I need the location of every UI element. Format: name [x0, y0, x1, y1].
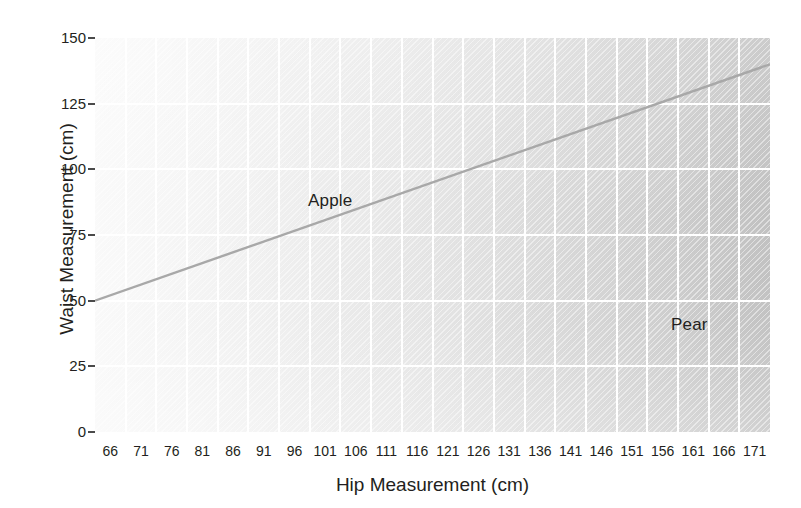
chart-figure: Apple Pear 0255075100125150 Waist Measur… [0, 0, 801, 508]
x-axis-tick-label: 151 [620, 443, 643, 459]
y-axis-tick-mark [88, 300, 95, 302]
region-label-pear: Pear [671, 315, 708, 335]
y-axis-tick-mark [88, 431, 95, 433]
y-axis-tick-mark [88, 37, 95, 39]
y-axis-title: Waist Measurement (cm) [56, 32, 78, 426]
x-axis-tick-label: 91 [256, 443, 272, 459]
x-axis-tick-label: 146 [590, 443, 613, 459]
x-axis-tick-label: 121 [436, 443, 459, 459]
x-axis-tick-label: 101 [313, 443, 336, 459]
x-axis-tick-label: 156 [651, 443, 674, 459]
ratio-boundary-line [95, 38, 770, 432]
x-axis-tick-label: 106 [344, 443, 367, 459]
y-axis-tick-mark [88, 168, 95, 170]
plot-area: Apple Pear [95, 38, 770, 432]
x-axis-tick-label: 136 [528, 443, 551, 459]
x-axis-tick-label: 171 [743, 443, 766, 459]
x-axis-tick-label: 116 [406, 443, 428, 459]
x-axis-tick-label: 71 [133, 443, 149, 459]
x-axis-tick-label: 161 [682, 443, 705, 459]
y-axis-tick-mark [88, 234, 95, 236]
x-axis-tick-label: 166 [712, 443, 735, 459]
x-axis-tick-label: 96 [287, 443, 303, 459]
boundary-line-segment [95, 64, 770, 300]
region-label-apple: Apple [308, 191, 352, 211]
x-axis-tick-label: 111 [376, 443, 397, 459]
x-axis-tick-label: 76 [164, 443, 180, 459]
y-axis-tick-mark [88, 103, 95, 105]
x-axis-tick-label: 66 [103, 443, 119, 459]
x-axis-tick-label: 81 [195, 443, 211, 459]
y-axis-tick-mark [88, 365, 95, 367]
x-axis-tick-label: 141 [559, 443, 582, 459]
x-axis-tick-label: 126 [467, 443, 490, 459]
x-axis-tick-label: 131 [498, 443, 521, 459]
x-axis-title: Hip Measurement (cm) [95, 474, 770, 496]
x-axis-tick-label: 86 [225, 443, 241, 459]
